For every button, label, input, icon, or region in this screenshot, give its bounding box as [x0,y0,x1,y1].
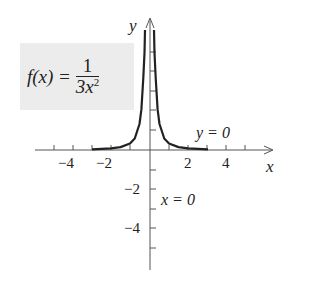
y-tick-label-neg4: −4 [124,221,140,236]
denominator-exponent: 2 [94,76,100,88]
x-tick-label-2: 2 [184,156,192,171]
vertical-asymptote-label: x = 0 [161,192,195,208]
function-lhs: f(x) = [27,66,71,87]
x-tick-label-4: 4 [222,156,230,171]
denominator-base: 3x [76,76,94,97]
function-fraction: 1 3x2 [76,56,99,96]
function-label: f(x) = 1 3x2 [27,56,99,96]
x-tick-label-neg2: −2 [96,156,112,171]
y-axis-label: y [129,17,137,34]
function-denominator: 3x2 [76,77,99,96]
horizontal-asymptote-label: y = 0 [196,125,230,141]
x-tick-label-neg4: −4 [58,156,74,171]
y-tick-label-neg2: −2 [124,182,140,197]
function-numerator: 1 [76,56,99,77]
x-axis-label: x [266,158,274,175]
